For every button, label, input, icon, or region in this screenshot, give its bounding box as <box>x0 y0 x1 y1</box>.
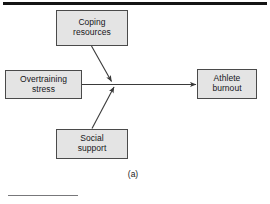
bottom-divider-rule <box>8 195 78 196</box>
node-athlete-burnout-label: Athlete burnout <box>210 74 243 94</box>
top-divider-rule <box>3 2 267 5</box>
node-coping-resources[interactable]: Coping resources <box>56 10 128 46</box>
node-overtraining-stress-label: Overtraining stress <box>18 75 69 95</box>
node-social-support[interactable]: Social support <box>56 129 128 159</box>
node-coping-resources-label: Coping resources <box>71 18 113 38</box>
edge-coping-moderates <box>92 46 112 82</box>
figure-panel-a: Coping resources Overtraining stress Soc… <box>0 0 270 204</box>
node-athlete-burnout-line2: burnout <box>212 83 241 93</box>
node-coping-resources-line2: resources <box>73 27 111 37</box>
node-social-support-line1: Social <box>80 133 103 143</box>
figure-caption: (a) <box>113 169 153 179</box>
node-social-support-label: Social support <box>76 134 109 154</box>
node-overtraining-stress[interactable]: Overtraining stress <box>5 70 82 99</box>
edge-social-moderates <box>92 87 114 129</box>
node-coping-resources-line1: Coping <box>78 17 105 27</box>
node-social-support-line2: support <box>78 143 107 153</box>
node-athlete-burnout-line1: Athlete <box>214 73 241 83</box>
node-overtraining-stress-line2: stress <box>32 84 55 94</box>
node-overtraining-stress-line1: Overtraining <box>20 74 67 84</box>
node-athlete-burnout[interactable]: Athlete burnout <box>197 69 257 99</box>
